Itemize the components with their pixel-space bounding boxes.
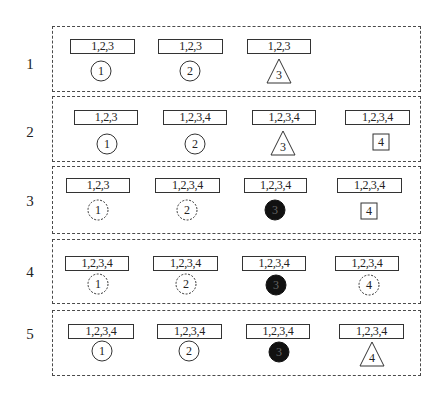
node-set-box: 1,2,3 bbox=[158, 39, 223, 54]
node-set-box: 1,2,3 bbox=[70, 39, 135, 54]
process-node: 4 bbox=[369, 130, 393, 154]
node-set-box: 1,2,3,4 bbox=[163, 110, 227, 125]
node-id-label: 2 bbox=[184, 204, 190, 216]
round-number-label: 1 bbox=[20, 56, 40, 72]
process-node: 3 bbox=[271, 131, 295, 155]
process-node: 1 bbox=[90, 339, 114, 363]
round-number-label: 4 bbox=[20, 264, 40, 280]
node-id-label: 2 bbox=[183, 278, 189, 290]
node-set-box: 1,2,3,4 bbox=[244, 178, 307, 193]
process-node: 2 bbox=[177, 339, 201, 363]
node-set-box: 1,2,3,4 bbox=[65, 256, 129, 271]
process-node: 4 bbox=[360, 342, 384, 366]
diagram-canvas: 11,2,311,2,321,2,3321,2,311,2,3,421,2,3,… bbox=[0, 0, 446, 401]
node-id-label: 1 bbox=[95, 278, 101, 290]
node-set-box: 1,2,3,4 bbox=[252, 110, 316, 125]
process-node: 2 bbox=[183, 132, 207, 156]
node-id-label: 3 bbox=[276, 346, 282, 358]
process-node: 1 bbox=[86, 272, 110, 296]
node-id-label: 1 bbox=[95, 204, 101, 216]
node-id-label: 3 bbox=[273, 279, 279, 291]
process-node: 4 bbox=[357, 199, 381, 223]
node-id-label: 2 bbox=[186, 345, 192, 357]
node-set-box: 1,2,3 bbox=[74, 110, 138, 125]
process-node: 2 bbox=[175, 198, 199, 222]
node-id-label: 1 bbox=[99, 345, 105, 357]
process-node: 1 bbox=[95, 132, 119, 156]
node-set-box: 1,2,3,4 bbox=[345, 110, 410, 125]
node-set-box: 1,2,3,4 bbox=[153, 256, 218, 271]
node-id-label: 4 bbox=[366, 205, 372, 217]
node-set-box: 1,2,3,4 bbox=[242, 256, 306, 271]
node-set-box: 1,2,3,4 bbox=[246, 324, 310, 339]
node-id-label: 4 bbox=[378, 136, 384, 148]
process-node: 2 bbox=[174, 272, 198, 296]
process-node: 3 bbox=[267, 340, 291, 364]
node-id-label: 1 bbox=[104, 138, 110, 150]
process-node: 1 bbox=[86, 198, 110, 222]
node-set-box: 1,2,3,4 bbox=[335, 256, 399, 271]
node-set-box: 1,2,3 bbox=[66, 178, 130, 193]
node-id-label: 2 bbox=[187, 65, 193, 77]
node-set-box: 1,2,3,4 bbox=[339, 324, 404, 339]
node-set-box: 1,2,3,4 bbox=[157, 324, 222, 339]
round-number-label: 5 bbox=[20, 326, 40, 342]
node-set-box: 1,2,3,4 bbox=[155, 178, 220, 193]
node-id-label: 1 bbox=[98, 65, 104, 77]
node-id-label: 4 bbox=[369, 352, 375, 364]
node-id-label: 4 bbox=[366, 279, 372, 291]
process-node: 3 bbox=[264, 273, 288, 297]
process-node: 3 bbox=[263, 198, 287, 222]
process-node: 4 bbox=[357, 273, 381, 297]
node-set-box: 1,2,3 bbox=[247, 39, 311, 54]
node-set-box: 1,2,3,4 bbox=[68, 324, 134, 339]
node-set-box: 1,2,3,4 bbox=[337, 178, 402, 193]
process-node: 1 bbox=[89, 59, 113, 83]
node-id-label: 3 bbox=[276, 69, 282, 81]
process-node: 3 bbox=[267, 59, 291, 83]
node-id-label: 3 bbox=[272, 204, 278, 216]
round-number-label: 3 bbox=[20, 193, 40, 209]
round-number-label: 2 bbox=[20, 124, 40, 140]
node-id-label: 2 bbox=[192, 138, 198, 150]
process-node: 2 bbox=[178, 59, 202, 83]
node-id-label: 3 bbox=[280, 141, 286, 153]
